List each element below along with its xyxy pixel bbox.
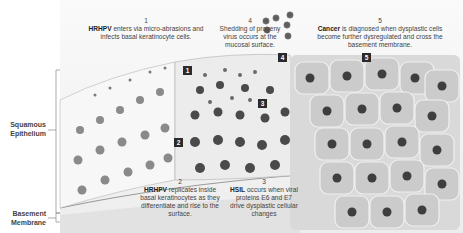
epithelium-bracket — [56, 70, 60, 213]
step-keyword: HRHPV — [144, 186, 167, 193]
marker-1: 1 — [183, 66, 192, 75]
step-number: 3 — [228, 178, 300, 186]
step-number: 4 — [212, 17, 288, 25]
squamous-epithelium-label: Squamous Epithelium — [2, 121, 46, 138]
hpv-diagram: Squamous Epithelium Basement Membrane 1 … — [0, 0, 463, 233]
step-number: 1 — [88, 17, 204, 25]
marker-4: 4 — [278, 53, 287, 62]
step-5-caption: 5 Cancer is diagnosed when dysplastic ce… — [310, 17, 450, 49]
membrane-bracket — [56, 213, 60, 222]
step-2-caption: 2 HRHPV replicates inside basal keratino… — [140, 178, 220, 218]
step-1-caption: 1 HRHPV enters via micro-abrasions and i… — [88, 17, 204, 41]
label-line: Epithelium — [10, 130, 46, 137]
step-4-caption: 4 Shedding of progeny virus occurs at th… — [212, 17, 288, 49]
step-keyword: HSIL — [230, 186, 245, 193]
marker-3: 3 — [258, 99, 267, 108]
step-3-caption: 3 HSIL occurs when viral proteins E6 and… — [228, 178, 300, 218]
marker-2: 2 — [174, 138, 183, 147]
step-text: Shedding of progeny virus occurs at the … — [220, 25, 281, 48]
step-number: 5 — [310, 17, 450, 25]
step-keyword: Cancer — [318, 25, 340, 32]
label-line: Squamous — [10, 121, 46, 128]
step-text: enters via micro-abrasions and infects b… — [101, 25, 204, 40]
label-line: Basement — [13, 210, 46, 217]
step-keyword: HRHPV — [88, 25, 111, 32]
basement-membrane-label: Basement Membrane — [2, 210, 46, 227]
label-line: Membrane — [11, 219, 46, 226]
step-number: 2 — [140, 178, 220, 186]
marker-5: 5 — [362, 53, 371, 62]
